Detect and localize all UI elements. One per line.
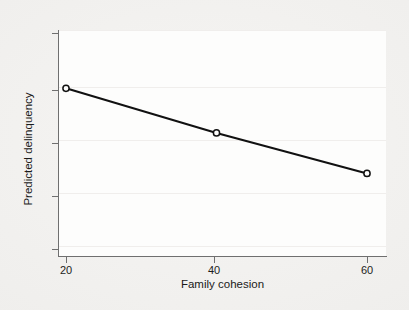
series-layer xyxy=(0,0,409,310)
data-point-marker xyxy=(364,170,370,176)
chart-figure: .8 .6 .4 .2 0 20 40 60 Predicted delinqu… xyxy=(0,0,409,310)
data-point-marker xyxy=(213,130,219,136)
data-point-marker xyxy=(63,85,69,91)
